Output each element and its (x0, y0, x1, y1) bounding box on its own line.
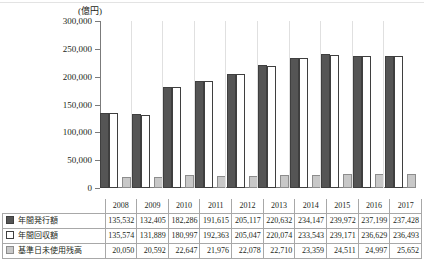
plot-area: 050,000100,000150,000200,000250,000300,0… (100, 21, 416, 188)
bar-group (132, 21, 164, 188)
table-year-header: 2011 (200, 199, 232, 214)
table-year-header: 2015 (326, 199, 358, 214)
table-cell: 24,511 (326, 244, 358, 259)
bar-issue (163, 87, 172, 188)
data-table-wrap: 2008200920102011201220132014201520162017… (2, 199, 422, 259)
table-cell: 205,047 (232, 229, 264, 244)
bar-issue (258, 65, 267, 188)
bar-group (195, 21, 227, 188)
bar-collect (172, 87, 181, 188)
table-cell: 135,532 (105, 214, 137, 229)
bar-balance (407, 174, 416, 188)
table-cell: 192,363 (200, 229, 232, 244)
bar-set (353, 21, 385, 188)
bar-set (321, 21, 353, 188)
table-year-header: 2010 (168, 199, 200, 214)
bar-group (321, 21, 353, 188)
y-tick-label: 300,000 (63, 16, 92, 26)
top-divider (0, 2, 424, 3)
table-cell: 237,428 (390, 214, 422, 229)
bar-group (290, 21, 322, 188)
legend-swatch-balance-icon (6, 246, 14, 254)
table-row: 基準日未使用残高20,05020,59222,64721,97622,07822… (3, 244, 422, 259)
bar-collect (236, 74, 245, 188)
y-tick-label: 50,000 (67, 155, 92, 165)
table-cell: 24,997 (358, 244, 390, 259)
bar-set (258, 21, 290, 188)
table-cell: 237,199 (358, 214, 390, 229)
bar-issue (321, 54, 330, 188)
bar-group (226, 21, 258, 188)
table-cell: 234,147 (295, 214, 327, 229)
table-row: 年間回収額135,574131,889180,997192,363205,047… (3, 229, 422, 244)
table-cell: 20,050 (105, 244, 137, 259)
table-cell: 25,652 (390, 244, 422, 259)
bar-group (384, 21, 416, 188)
table-row: 年間発行額135,532132,405182,286191,615205,117… (3, 214, 422, 229)
bar-issue (195, 81, 204, 188)
legend-label: 基準日未使用残高 (18, 244, 82, 258)
table-cell: 180,997 (168, 229, 200, 244)
bar-issue (290, 58, 299, 188)
bar-collect (141, 115, 150, 188)
bar-collect (394, 56, 403, 188)
table-cell: 23,359 (295, 244, 327, 259)
bar-chart: 050,000100,000150,000200,000250,000300,0… (0, 16, 424, 200)
table-corner-cell (3, 199, 106, 214)
table-year-header: 2009 (137, 199, 169, 214)
bar-group (353, 21, 385, 188)
table-cell: 20,592 (137, 244, 169, 259)
table-cell: 220,632 (263, 214, 295, 229)
bar-set (384, 21, 416, 188)
bar-issue (100, 113, 109, 188)
bar-set (195, 21, 227, 188)
table-cell: 236,629 (358, 229, 390, 244)
bar-collect (362, 56, 371, 188)
table-cell: 132,405 (137, 214, 169, 229)
bar-group (100, 21, 132, 188)
table-header-row: 2008200920102011201220132014201520162017 (3, 199, 422, 214)
legend-cell-balance: 基準日未使用残高 (3, 244, 106, 259)
table-cell: 239,972 (326, 214, 358, 229)
table-year-header: 2017 (390, 199, 422, 214)
table-year-header: 2013 (263, 199, 295, 214)
bar-collect (330, 55, 339, 188)
table-cell: 205,117 (232, 214, 264, 229)
table-cell: 220,074 (263, 229, 295, 244)
table-year-header: 2008 (105, 199, 137, 214)
bar-set (226, 21, 258, 188)
chart-figure: (億円) 050,000100,000150,000200,000250,000… (0, 0, 424, 263)
table-cell: 22,647 (168, 244, 200, 259)
data-table: 2008200920102011201220132014201520162017… (2, 199, 422, 259)
legend-label: 年間発行額 (18, 214, 58, 228)
bar-collect (204, 81, 213, 188)
bar-group (163, 21, 195, 188)
legend-cell-issue: 年間発行額 (3, 214, 106, 229)
legend-cell-collect: 年間回収額 (3, 229, 106, 244)
bar-set (163, 21, 195, 188)
bar-set (132, 21, 164, 188)
table-cell: 131,889 (137, 229, 169, 244)
y-tick-label: 250,000 (63, 44, 92, 54)
bar-collect (267, 66, 276, 189)
table-cell: 191,615 (200, 214, 232, 229)
table-cell: 239,171 (326, 229, 358, 244)
table-cell: 135,574 (105, 229, 137, 244)
y-tick-label: 0 (88, 183, 93, 193)
bar-set (100, 21, 132, 188)
table-cell: 22,078 (232, 244, 264, 259)
bar-issue (353, 56, 362, 188)
bar-group (258, 21, 290, 188)
table-year-header: 2014 (295, 199, 327, 214)
table-cell: 236,493 (390, 229, 422, 244)
y-tick (95, 188, 100, 189)
table-year-header: 2012 (232, 199, 264, 214)
legend-swatch-collect-icon (6, 231, 14, 239)
table-cell: 233,543 (295, 229, 327, 244)
legend-label: 年間回収額 (18, 229, 58, 243)
table-cell: 182,286 (168, 214, 200, 229)
bar-issue (385, 56, 394, 188)
bar-collect (299, 58, 308, 188)
bar-issue (132, 114, 141, 188)
legend-swatch-issue-icon (6, 216, 14, 224)
